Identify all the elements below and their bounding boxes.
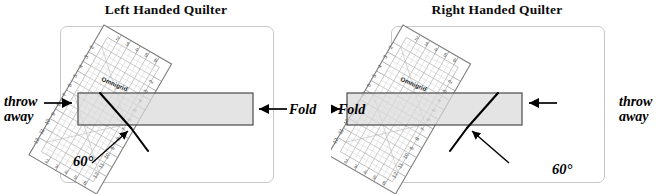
- label-throw-away-right: throw away: [619, 95, 652, 124]
- panel-title-left: Left Handed Quilter: [0, 2, 332, 18]
- panel-right-handed-quilter: Right Handed Quilter Omnigrid: [331, 0, 663, 194]
- panel-left-handed-quilter: Left Handed Quilter: [0, 0, 332, 194]
- label-angle-right: 60°: [552, 161, 572, 178]
- label-throw-away-right-line2: away: [619, 110, 652, 125]
- panel-frame-right: [391, 26, 605, 183]
- label-throw-away-left-line1: throw: [4, 95, 37, 110]
- label-throw-away-left: throw away: [4, 95, 37, 124]
- label-throw-away-right-line1: throw: [619, 95, 652, 110]
- label-throw-away-left-line2: away: [4, 110, 37, 125]
- quilting-diagram: Left Handed Quilter: [0, 0, 663, 194]
- label-fold-left: Fold: [289, 103, 316, 117]
- label-angle-left: 60°: [73, 153, 93, 170]
- panel-title-right: Right Handed Quilter: [331, 2, 663, 18]
- label-fold-right: Fold: [338, 103, 365, 117]
